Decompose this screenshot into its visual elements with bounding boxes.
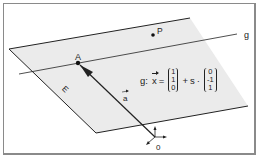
line-equation: g: x = 1 1 0 + s · 0 -1 1 <box>140 67 219 93</box>
vector-a-label: a <box>123 94 128 103</box>
equation-equals: = <box>159 75 165 86</box>
equation-parameter: s <box>190 75 195 86</box>
support-vector: 1 1 0 <box>168 68 178 92</box>
equation-name: g: <box>140 75 148 86</box>
point-a-label: A <box>75 52 81 62</box>
origin-label: 0 <box>156 143 161 152</box>
direction-vector: 0 -1 1 <box>204 68 217 92</box>
support-vector-z: 0 <box>171 84 175 92</box>
line-g-label: g <box>244 30 249 40</box>
equation-dot: · <box>197 75 200 86</box>
equation-plus: + <box>182 75 188 86</box>
geometry-diagram: g a A P E 0 <box>0 0 262 160</box>
direction-vector-z: 1 <box>208 84 212 92</box>
point-p-label: P <box>157 26 163 36</box>
point-p <box>151 33 155 37</box>
equation-lhs-vector: x <box>152 75 157 86</box>
